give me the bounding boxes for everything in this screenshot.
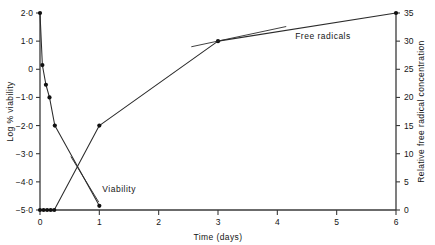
y-axis-left-tick-label: −5·0 xyxy=(16,205,34,215)
y-axis-left-tick-label: 0 xyxy=(28,64,33,74)
x-axis-tick-label: 5 xyxy=(334,217,339,227)
data-point-viability xyxy=(40,63,44,67)
data-point-viability xyxy=(47,95,51,99)
y-axis-right-tick-label: 15 xyxy=(404,121,414,131)
y-axis-left-tick-label: −3·0 xyxy=(16,149,34,159)
y-axis-left-tick-label: −4·0 xyxy=(16,177,34,187)
viability-leader-line xyxy=(71,157,99,203)
x-axis-tick-label: 6 xyxy=(394,217,399,227)
data-point-free-radicals xyxy=(394,11,398,15)
series-line-viability xyxy=(40,13,99,206)
data-point-viability xyxy=(97,204,101,208)
y-axis-left-tick-label: 1·0 xyxy=(21,36,34,46)
data-point-free-radicals xyxy=(97,123,101,127)
y-axis-left-tick-label: −1·0 xyxy=(16,92,34,102)
x-axis-tick-label: 4 xyxy=(275,217,280,227)
y-axis-right-tick-label: 35 xyxy=(404,8,414,18)
y-axis-right-tick-label: 25 xyxy=(404,64,414,74)
y-axis-right-tick-label: 10 xyxy=(404,149,414,159)
data-point-free-radicals xyxy=(52,208,56,212)
y-axis-right-title: Relative free radical concentration xyxy=(416,40,426,183)
y-axis-right-tick-label: 30 xyxy=(404,36,414,46)
data-point-viability xyxy=(38,11,42,15)
y-axis-right-tick-label: 20 xyxy=(404,92,414,102)
data-point-viability xyxy=(44,83,48,87)
x-axis-tick-label: 0 xyxy=(38,217,43,227)
free-radicals-leader-line xyxy=(191,27,286,47)
x-axis-tick-label: 1 xyxy=(97,217,102,227)
y-axis-left-tick-label: 2·0 xyxy=(21,8,34,18)
x-axis-title: Time (days) xyxy=(194,232,243,242)
annotation-free-radicals: Free radicals xyxy=(295,31,351,41)
chart-plot-area: 2·01·00−1·0−2·0−3·0−4·0−5·00510152025303… xyxy=(0,0,435,245)
y-axis-left-title: Log % viability xyxy=(5,81,15,142)
x-axis-tick-label: 2 xyxy=(156,217,161,227)
figure-chart: 2·01·00−1·0−2·0−3·0−4·0−5·00510152025303… xyxy=(0,0,435,245)
data-point-viability xyxy=(53,123,57,127)
y-axis-right-tick-label: 0 xyxy=(404,205,409,215)
y-axis-right-tick-label: 5 xyxy=(404,177,409,187)
y-axis-left-tick-label: −2·0 xyxy=(16,121,34,131)
x-axis-tick-label: 3 xyxy=(216,217,221,227)
annotation-viability: Viability xyxy=(102,184,136,194)
